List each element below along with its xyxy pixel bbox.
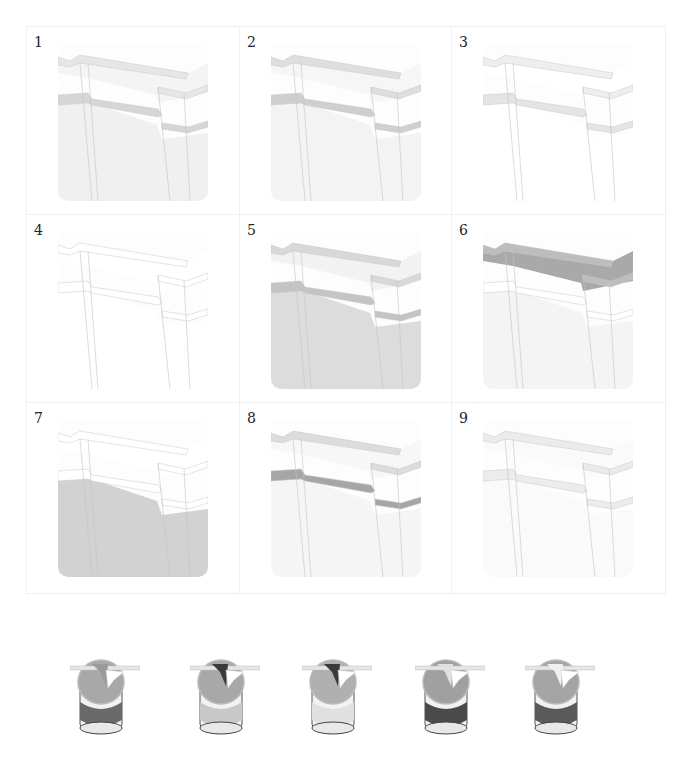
panel-number: 8 (247, 410, 256, 426)
panel-cell-4: 4 (27, 215, 240, 403)
paint-can-icon (70, 650, 140, 740)
panel-cell-2: 2 (240, 27, 452, 215)
panel-number: 9 (459, 410, 468, 426)
panel-number: 2 (247, 34, 256, 50)
panel-cell-9: 9 (452, 403, 665, 593)
wall-illustration (271, 43, 421, 201)
panel-number: 5 (247, 222, 256, 238)
wall-illustration (58, 419, 208, 577)
panel-cell-1: 1 (27, 27, 240, 215)
wall-illustration (271, 419, 421, 577)
paint-can-icon (525, 650, 595, 740)
paint-can-row (0, 640, 685, 760)
wall-illustration (483, 419, 633, 577)
paint-can-icon (415, 650, 485, 740)
paint-can-icon (190, 650, 260, 740)
panel-cell-8: 8 (240, 403, 452, 593)
panel-number: 1 (34, 34, 43, 50)
wall-illustration (483, 231, 633, 389)
panel-cell-6: 6 (452, 215, 665, 403)
panel-cell-5: 5 (240, 215, 452, 403)
wall-illustration (58, 43, 208, 201)
panel-number: 4 (34, 222, 43, 238)
panel-number: 3 (459, 34, 468, 50)
panel-number: 6 (459, 222, 468, 238)
wall-illustration (58, 231, 208, 389)
wall-illustration (271, 231, 421, 389)
paint-can-icon (302, 650, 372, 740)
panel-cell-3: 3 (452, 27, 665, 215)
wall-illustration (483, 43, 633, 201)
panel-cell-7: 7 (27, 403, 240, 593)
panel-grid: 1 2 3 4 (26, 26, 666, 594)
panel-number: 7 (34, 410, 43, 426)
